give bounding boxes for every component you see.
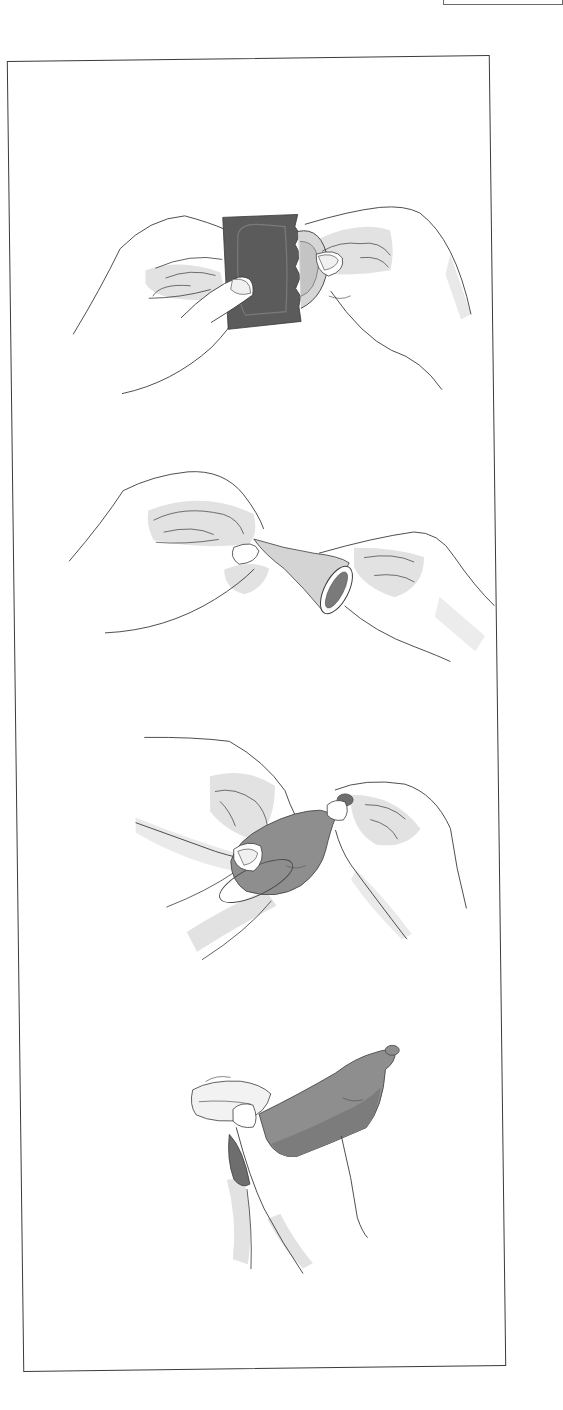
illustration-frame: hands-tearing-packet bbox=[7, 55, 506, 1372]
pinching-tip-icon bbox=[134, 728, 477, 972]
step-2-illustration: hands-unrolling-check-direction bbox=[53, 456, 496, 672]
step-1-illustration: hands-tearing-packet bbox=[60, 194, 483, 409]
page-corner-label-box bbox=[443, 0, 563, 5]
step-3-illustration: pinching-tip-placing bbox=[134, 728, 477, 972]
step-4-illustration: rolling-down-shaft bbox=[170, 1017, 433, 1280]
rolling-down-icon bbox=[170, 1017, 433, 1280]
hands-unrolling-icon bbox=[53, 456, 496, 672]
hands-tearing-packet-icon bbox=[60, 194, 483, 409]
